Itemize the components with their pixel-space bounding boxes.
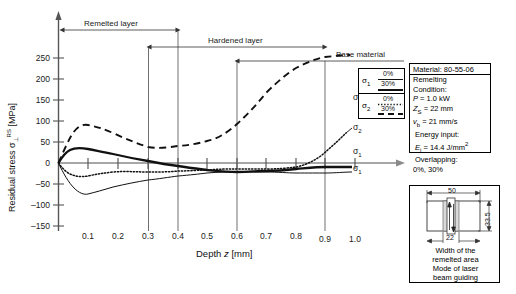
zone-label-base: Base material	[336, 50, 385, 59]
param-remelting: Remelting	[410, 75, 490, 85]
x-tick-0.6: 0.6	[225, 231, 249, 241]
schematic-dim-width: 50	[448, 187, 456, 194]
y-axis	[53, 11, 64, 231]
zone-label-hardened: Hardened layer	[208, 36, 263, 45]
param-overlapping-label: Overlapping:	[410, 155, 490, 165]
legend-sigma1-line-30	[378, 89, 403, 91]
x-tick-0.2: 0.2	[106, 231, 130, 241]
parameters-header: Material: 80-55-06	[410, 64, 490, 75]
y-tick-100: 100	[18, 116, 50, 126]
y-tick-50: 50	[18, 137, 50, 147]
x-axis-title: Depth z [mm]	[196, 248, 253, 259]
schematic-dim-height: 33.5	[484, 212, 491, 226]
x-axis-title-unit: [mm]	[229, 248, 253, 259]
y-tick-200: 200	[18, 74, 50, 84]
legend-sigma1-sub: 1	[367, 81, 370, 87]
y-tick-minus50: –50	[14, 179, 50, 189]
x-tick-0.4: 0.4	[166, 231, 190, 241]
y-axis-title-text: Residual stress σ	[7, 142, 17, 212]
schematic-caption-2: remelted area	[410, 255, 501, 264]
curve-label-sigma1-0-sub: 1	[358, 169, 361, 175]
curve-sigma1-30	[59, 148, 353, 172]
param-overlapping-val: 0%, 30%	[410, 165, 490, 175]
curve-sigma2-0	[59, 133, 347, 177]
x-tick-0.1: 0.1	[76, 231, 100, 241]
legend-sigma2-sub: 2	[367, 106, 370, 112]
legend-sigma2-pct-0: 0%	[383, 95, 393, 102]
x-axis-title-pre: Depth	[196, 248, 224, 259]
x-tick-0.7: 0.7	[254, 231, 278, 241]
y-axis-title: Residual stress σ⊥RS [MPa]	[6, 103, 19, 212]
y-axis-title-unit: [MPa]	[7, 103, 17, 129]
param-power: P = 1.0 kW	[410, 94, 490, 104]
parameters-box: Material: 80-55-06 Remelting Condition: …	[409, 63, 491, 153]
param-ei-val: = 14.4 J/mm	[421, 142, 465, 151]
param-ei-sup: 2	[465, 141, 468, 147]
legend-row-sigma1: σ1 0% 30%	[359, 69, 404, 94]
x-tick-1.0: 1.0	[343, 234, 367, 244]
curve-label-sigma2-0: σ2	[353, 122, 362, 134]
y-tick-150: 150	[18, 95, 50, 105]
legend-sigma2-symbol: σ2	[362, 101, 370, 112]
x-tick-0.9: 0.9	[313, 234, 337, 244]
legend-box: σ1 0% 30% σ2 0% 30%	[358, 68, 405, 119]
zone-label-remelted: Remelted layer	[84, 19, 138, 28]
param-vb: vb = 21 mm/s	[410, 117, 490, 130]
curve-label-sigma2-0-sub: 2	[358, 128, 361, 134]
y-tick-minus150: –150	[14, 221, 50, 231]
curve-sigma2-30	[59, 55, 351, 163]
y-tick-250: 250	[18, 53, 50, 63]
x-tick-0.3: 0.3	[136, 231, 160, 241]
param-ei: Ei = 14.4 J/mm2	[410, 140, 490, 156]
legend-sigma1-symbol: σ1	[362, 76, 370, 87]
curve-label-sigma1-30: σ1	[353, 146, 362, 158]
y-axis-title-sub: ⊥	[13, 137, 19, 142]
curve-label-sigma1-30-sub: 1	[358, 152, 361, 158]
param-zs-val: = 22 mm	[422, 104, 453, 113]
schematic-caption-3: Mode of laser	[410, 264, 501, 273]
schematic-caption-4: beam guiding	[410, 273, 501, 282]
curve-label-sigma1-0: σ1	[353, 163, 362, 175]
x-tick-0.5: 0.5	[195, 231, 219, 241]
schematic-dim-track: 22	[446, 234, 454, 241]
legend-sigma1-pct-0: 0%	[383, 70, 393, 77]
x-tick-0.8: 0.8	[284, 231, 308, 241]
y-tick-0: 0	[18, 158, 50, 168]
param-zs: ZS = 22 mm	[410, 104, 490, 117]
y-tick-minus100: –100	[14, 200, 50, 210]
param-vb-val: = 21 mm/s	[420, 117, 457, 126]
legend-row-sigma2: σ2 0% 30%	[359, 94, 404, 119]
curve-label-leaders	[346, 128, 352, 133]
chart-figure: 250 200 150 100 50 0 –50 –100 –150 0.1 0…	[0, 0, 516, 294]
param-condition: Condition:	[410, 85, 490, 95]
legend-sigma2-pct-30: 30%	[381, 105, 395, 112]
param-power-val: = 1.0 kW	[418, 94, 450, 103]
y-axis-title-sup: RS	[6, 129, 12, 137]
legend-sigma1-pct-30: 30%	[381, 80, 395, 87]
schematic-caption-1: Width of the	[410, 246, 501, 255]
param-energy-input-label: Energy input:	[410, 130, 490, 140]
schematic-box: 50 33.5 22 Width of the remelted area Mo…	[409, 185, 500, 283]
